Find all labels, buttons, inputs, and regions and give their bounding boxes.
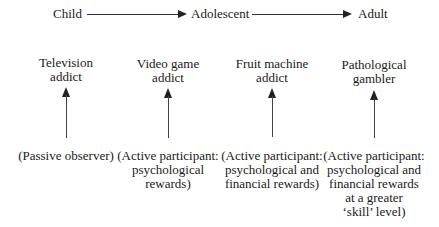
addict-title: Fruit machine addict — [222, 57, 322, 85]
arrow-right-icon — [343, 10, 352, 18]
description: (Active participant: psychological and f… — [322, 149, 426, 219]
desc-line: psychological — [116, 163, 220, 177]
arrow-right-icon — [178, 10, 187, 18]
description: (Passive observer) — [14, 149, 118, 163]
description: (Active participant: psychological and f… — [220, 149, 324, 191]
desc-line: rewards) — [116, 177, 220, 191]
title-line: addict — [222, 71, 322, 85]
arrow-shaft — [374, 98, 375, 138]
stage-child: Child — [53, 7, 82, 21]
title-line: addict — [16, 70, 116, 84]
title-line: Television — [16, 56, 116, 70]
title-line: gambler — [324, 72, 424, 86]
title-line: addict — [118, 71, 218, 85]
addict-title: Television addict — [16, 56, 116, 84]
arrow-shaft — [66, 95, 67, 138]
stage-adult: Adult — [358, 7, 388, 21]
timeline-arrow-line-1 — [87, 14, 179, 15]
desc-line: (Active participant: — [116, 149, 220, 163]
arrow-shaft — [168, 96, 169, 138]
desc-line: ‘skill’ level) — [322, 205, 426, 219]
title-line: Fruit machine — [222, 57, 322, 71]
addict-title: Video game addict — [118, 57, 218, 85]
desc-line: financial rewards) — [220, 177, 324, 191]
title-line: Video game — [118, 57, 218, 71]
addict-title: Pathological gambler — [324, 58, 424, 86]
title-line: Pathological — [324, 58, 424, 72]
description: (Active participant: psychological rewar… — [116, 149, 220, 191]
desc-line: (Active participant: — [322, 149, 426, 163]
desc-line: (Active participant: — [220, 149, 324, 163]
desc-line: (Passive observer) — [14, 149, 118, 163]
timeline-arrow-line-2 — [252, 14, 344, 15]
desc-line: psychological and — [220, 163, 324, 177]
arrow-shaft — [272, 96, 273, 137]
stage-adolescent: Adolescent — [191, 7, 249, 21]
desc-line: at a greater — [322, 191, 426, 205]
desc-line: financial rewards — [322, 177, 426, 191]
desc-line: psychological and — [322, 163, 426, 177]
